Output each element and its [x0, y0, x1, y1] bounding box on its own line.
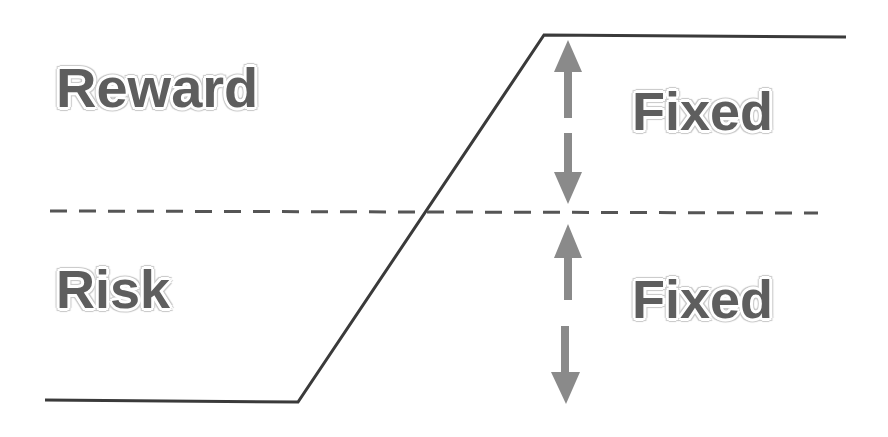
- up-arrow-icon: [554, 224, 582, 300]
- fixed-risk-label: Fixed: [632, 272, 773, 326]
- down-arrow-icon: [551, 326, 580, 404]
- up-arrow-icon: [554, 40, 582, 118]
- breakeven-dashed-line: [50, 211, 818, 213]
- down-arrow-icon: [554, 133, 582, 204]
- fixed-reward-label: Fixed: [632, 84, 773, 138]
- reward-label: Reward: [56, 60, 258, 116]
- risk-label: Risk: [56, 262, 170, 316]
